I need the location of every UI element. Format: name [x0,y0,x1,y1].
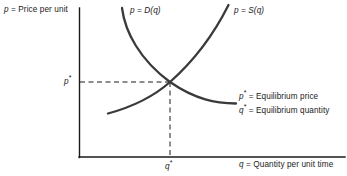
supply-demand-figure: p = Price per unit p = D(q) p = S(q) p* … [0,0,347,176]
supply-curve-label-text: = S(q) [239,6,265,15]
supply-curve [108,5,229,114]
equilibrium-quantity-tick-label: q* [165,159,172,171]
legend-row-text: = Equilibrium quantity [246,106,329,115]
demand-curve-label-text: = D(q) [135,6,161,15]
y-axis-label-text: = Price per unit [9,5,68,14]
x-axis-label: q = Quantity per unit time [239,160,333,169]
legend-row: p* = Equilibrium price [239,88,329,102]
equilibrium-price-tick-star: * [69,74,72,81]
supply-curve-label: p = S(q) [234,6,264,15]
legend-row: q* = Equilibrium quantity [239,102,329,116]
legend-row-text: = Equilibrium price [246,92,318,101]
legend: p* = Equilibrium price q* = Equilibrium … [239,88,329,116]
equilibrium-price-tick-label: p* [64,74,71,86]
demand-curve-label: p = D(q) [130,6,161,15]
x-axis-label-text: = Quantity per unit time [244,160,334,169]
equilibrium-quantity-tick-star: * [170,159,173,166]
y-axis-label: p = Price per unit [4,5,68,14]
